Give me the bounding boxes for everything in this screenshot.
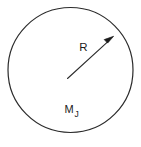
mass-label: M xyxy=(64,103,73,115)
figure-root: R M J xyxy=(0,0,141,147)
figure-background xyxy=(0,0,141,147)
circle-radius-diagram: R M J xyxy=(0,0,141,147)
radius-label: R xyxy=(79,41,88,53)
mass-subscript-label: J xyxy=(74,109,78,119)
